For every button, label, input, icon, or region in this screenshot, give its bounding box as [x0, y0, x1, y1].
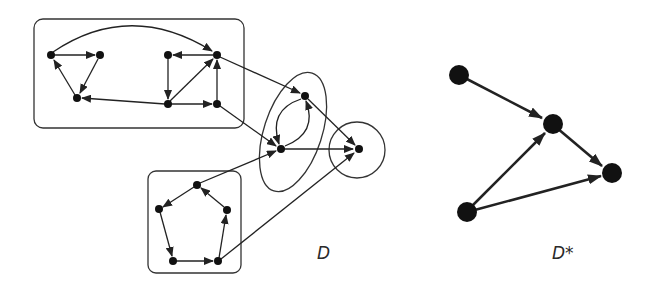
edge-m1-m2-cycle: [276, 99, 301, 144]
node-m1: [301, 92, 309, 100]
top-strong-component-box: [34, 19, 244, 128]
dstar-node-pentagon-strong-component: [457, 202, 477, 222]
edge-p1-m2: [200, 151, 276, 183]
graph-d-star-label: D*: [552, 243, 574, 263]
node-p3: [169, 257, 177, 265]
dstar-node-middle-strong-component: [543, 114, 563, 134]
edge-m2-m1-cycle: [285, 101, 309, 146]
edge-g-f: [170, 59, 213, 101]
edge-p1-p2: [163, 187, 194, 207]
edge-p5-p1: [201, 188, 224, 207]
node-a: [47, 51, 55, 59]
node-c: [73, 94, 81, 102]
node-p2: [155, 205, 163, 213]
node-r: [355, 145, 363, 153]
node-p5: [223, 206, 231, 214]
edge-c-a: [54, 60, 75, 95]
node-h: [213, 100, 221, 108]
edge-g-c: [82, 98, 165, 104]
node-e: [164, 51, 172, 59]
dstar-node-top-strong-component: [449, 65, 469, 85]
edge-h-m2: [220, 106, 276, 146]
node-f: [213, 51, 221, 59]
edge-f-m1: [220, 57, 300, 93]
edge-p4-p5: [219, 215, 226, 258]
graph-d-edges: [53, 26, 355, 261]
node-g: [164, 100, 172, 108]
dstar-edge-s4-s3: [471, 176, 601, 211]
node-p1: [193, 181, 201, 189]
edge-p2-p3: [160, 212, 172, 256]
dstar-node-right-strong-component: [602, 163, 622, 183]
dstar-edge-s1-s2: [463, 77, 542, 118]
edge-a-f-arc: [53, 26, 212, 52]
graph-d-label: D: [317, 243, 330, 263]
dstar-edge-s2-s3: [557, 128, 602, 166]
middle-strong-component-ellipse: [246, 64, 339, 200]
node-m2: [277, 145, 285, 153]
component-containers: [34, 19, 385, 273]
node-b: [96, 51, 104, 59]
graph-d-star-edges: [463, 77, 602, 211]
edge-b-c: [80, 59, 98, 93]
dstar-edge-s4-s2: [470, 133, 545, 208]
node-p4: [214, 257, 222, 265]
graph-d-nodes: [47, 51, 363, 265]
